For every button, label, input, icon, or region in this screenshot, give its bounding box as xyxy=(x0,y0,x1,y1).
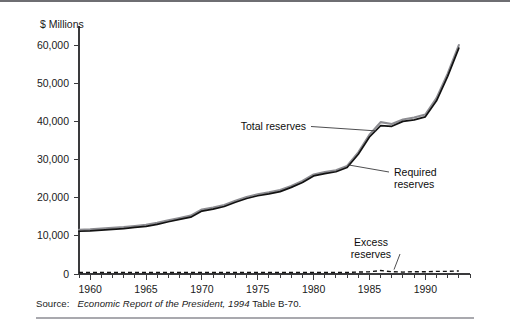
source-publication-title: Economic Report of the President, 1994 xyxy=(78,298,250,309)
y-tick-label: 40,000 xyxy=(37,115,69,127)
y-tick-label: 10,000 xyxy=(37,229,69,241)
required-reserves-label-line2: reserves xyxy=(394,178,434,190)
required-reserves-label-line1: Required xyxy=(394,166,437,178)
x-tick-label: 1985 xyxy=(358,283,382,295)
y-tick-label: 50,000 xyxy=(37,77,69,89)
y-axis-tick-labels: 010,00020,00030,00040,00050,00060,000 xyxy=(37,39,69,280)
x-axis-tick-labels: 1960196519701975198019851990 xyxy=(78,283,437,295)
x-tick-label: 1990 xyxy=(414,283,438,295)
data-series xyxy=(79,45,459,272)
chart-figure: 010,00020,00030,00040,00050,00060,000 19… xyxy=(0,0,510,322)
axes xyxy=(79,26,470,274)
y-tick-label: 0 xyxy=(63,268,69,280)
x-tick-label: 1980 xyxy=(302,283,326,295)
x-tick-label: 1970 xyxy=(190,283,214,295)
total-reserves-leader-line xyxy=(311,127,376,131)
source-note: Source: Economic Report of the President… xyxy=(36,298,301,309)
y-axis-title: $ Millions xyxy=(40,18,84,30)
x-tick-label: 1960 xyxy=(78,283,102,295)
y-tick-label: 60,000 xyxy=(37,39,69,51)
source-table-reference: Table B-70. xyxy=(250,298,302,309)
excess-reserves-leader-line xyxy=(394,254,400,270)
x-tick-label: 1965 xyxy=(134,283,158,295)
plot-annotations: Total reserves Required reserves Excess … xyxy=(241,120,437,270)
source-label: Source: xyxy=(36,298,69,309)
y-tick-label: 30,000 xyxy=(37,153,69,165)
x-tick-label: 1975 xyxy=(246,283,270,295)
required-reserves-leader-line xyxy=(348,165,389,172)
series-required-reserves xyxy=(79,48,459,231)
excess-reserves-label-line2: reserves xyxy=(351,248,391,260)
series-total-reserves xyxy=(79,45,459,230)
excess-reserves-label-line1: Excess xyxy=(354,236,388,248)
y-tick-label: 20,000 xyxy=(37,191,69,203)
bottom-divider xyxy=(36,317,474,319)
x-axis-ticks xyxy=(79,274,470,280)
series-excess-reserves xyxy=(79,271,459,273)
axis-lines xyxy=(79,26,470,274)
reserves-line-chart: 010,00020,00030,00040,00050,00060,000 19… xyxy=(0,2,510,302)
y-axis-ticks xyxy=(74,45,79,274)
total-reserves-label: Total reserves xyxy=(241,120,306,132)
